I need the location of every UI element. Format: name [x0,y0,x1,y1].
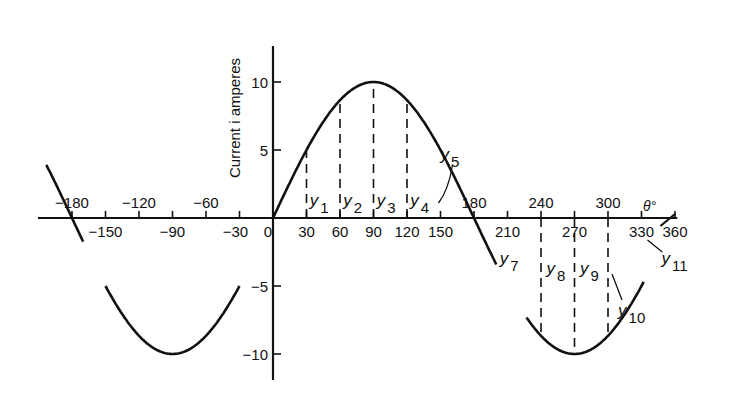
x-tick-label: 150 [428,223,453,240]
y-axis-title: Current i amperes [226,58,243,178]
y-tick-label: 5 [260,142,268,159]
x-tick-label: 330 [629,223,654,240]
x-tick-label: 90 [365,223,382,240]
x-tick-label: 300 [595,194,620,211]
ordinate-label-y9: y9 [579,259,599,284]
x-tick-label: 120 [394,223,419,240]
x-tick-label: −120 [122,194,156,211]
ordinate-label-y4: y4 [409,191,429,216]
x-tick-label: 180 [461,194,486,211]
x-tick-label: 30 [298,223,315,240]
sine-wave-chart: 105−5−10−180−120−60180240300−150−90−3003… [0,0,743,397]
ordinate-label-y7: y7 [499,249,519,274]
x-tick-label: −60 [193,194,218,211]
x-tick-label: −150 [89,223,123,240]
ordinate-label-y3: y3 [376,191,396,216]
ordinate-label-y8: y8 [546,259,566,284]
x-tick-label: −30 [223,223,248,240]
y-tick-label: −10 [243,346,268,363]
x-tick-label: 360 [662,223,687,240]
x-tick-label: 270 [562,223,587,240]
ordinate-label-y1: y1 [309,191,329,216]
x-tick-label: 0 [264,223,272,240]
y-tick-label: −5 [251,278,268,295]
x-tick-label: 240 [528,194,553,211]
x-axis-title: θ° [643,198,657,214]
x-tick-label: 60 [332,223,349,240]
ordinate-label-y2: y2 [342,191,362,216]
x-tick-label: 210 [495,223,520,240]
y-tick-label: 10 [251,74,268,91]
x-tick-label: −90 [160,223,185,240]
x-tick-label: −180 [55,194,89,211]
ordinate-label-y11: y11 [661,249,688,274]
